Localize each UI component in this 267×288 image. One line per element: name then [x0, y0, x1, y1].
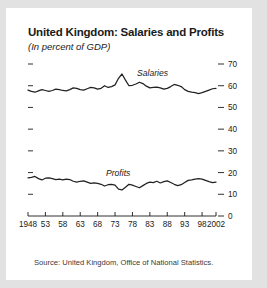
series-line-profits	[28, 176, 216, 189]
series-line-salaries	[28, 74, 216, 94]
right-tick-label-20: 20	[228, 169, 238, 178]
series-label-salaries: Salaries	[137, 68, 169, 78]
right-tick-label-40: 40	[228, 125, 238, 134]
x-tick-label-1958: 58	[58, 220, 68, 229]
right-tick-label-0: 0	[228, 212, 233, 221]
left-axis-ticks	[28, 64, 33, 194]
x-axis-tick-labels: 1948535863687378838893982002	[19, 220, 226, 229]
x-axis-ticks	[28, 212, 216, 216]
x-tick-label-2002: 2002	[207, 220, 226, 229]
right-tick-label-30: 30	[228, 147, 238, 156]
x-tick-label-1968: 68	[93, 220, 103, 229]
x-tick-label-1983: 83	[145, 220, 155, 229]
right-axis-ticks	[218, 64, 224, 216]
x-tick-label-1953: 53	[41, 220, 51, 229]
x-tick-label-1988: 88	[163, 220, 173, 229]
series-label-profits: Profits	[106, 168, 131, 178]
right-tick-label-50: 50	[228, 103, 238, 112]
right-tick-label-10: 10	[228, 190, 238, 199]
x-tick-label-1993: 93	[180, 220, 190, 229]
line-chart: 010203040506070 194853586368737883889398…	[0, 0, 267, 288]
right-tick-label-70: 70	[228, 60, 238, 69]
x-tick-label-1998: 98	[198, 220, 208, 229]
x-tick-label-1948: 1948	[19, 220, 38, 229]
x-tick-label-1963: 63	[76, 220, 86, 229]
x-tick-label-1973: 73	[110, 220, 120, 229]
right-tick-label-60: 60	[228, 82, 238, 91]
x-tick-label-1978: 78	[128, 220, 138, 229]
right-axis-tick-labels: 010203040506070	[228, 60, 238, 221]
